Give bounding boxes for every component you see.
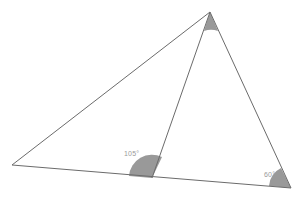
geometry-canvas: 105° 60° (0, 0, 301, 201)
angle-wedge-105 (129, 155, 162, 178)
angle-label-105: 105° (124, 150, 139, 157)
cevian-line (152, 12, 210, 178)
angle-label-60: 60° (264, 171, 275, 178)
geometry-figure: 105° 60° (0, 0, 301, 201)
